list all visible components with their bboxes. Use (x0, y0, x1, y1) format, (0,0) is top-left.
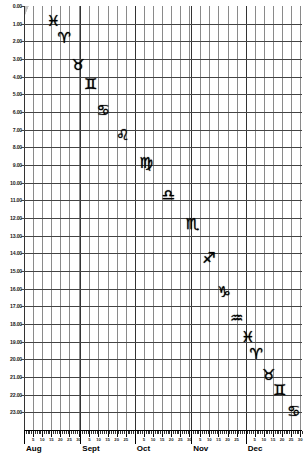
day-tick-label: 25 (289, 437, 294, 442)
day-tick-label: 5 (254, 437, 256, 442)
zodiac-glyph-capricorn: ♑ (217, 285, 230, 300)
zodiac-glyph-taurus: ♉ (71, 58, 84, 73)
day-tick-label: 25 (123, 437, 128, 442)
hour-gridline (24, 306, 302, 307)
hour-gridline (24, 94, 302, 95)
hour-gridline (24, 183, 302, 184)
hour-gridline (24, 130, 302, 131)
zodiac-glyph-sagittarius: ♐ (202, 251, 215, 266)
y-axis: 0.001.002.003.004.005.006.007.008.009.00… (0, 0, 24, 436)
day-tick-label: 20 (114, 437, 119, 442)
day-tick-label: 30 (298, 437, 303, 442)
x-axis: Aug51015202530Sept510152025Oct5101520253… (24, 431, 302, 467)
zodiac-glyph-scorpio: ♏ (185, 217, 198, 232)
day-tick-label: 15 (160, 437, 165, 442)
day-tick-label: 10 (40, 437, 45, 442)
zodiac-glyph-leo: ♌ (116, 128, 129, 143)
hour-gridline (24, 324, 302, 325)
day-tick-label: 20 (225, 437, 230, 442)
day-tick-label: 15 (49, 437, 54, 442)
plot-area: ♓♈♉♊♋♌♍♎♏♐♑♒♓♈♉♊♋ (24, 6, 302, 430)
hour-gridline (24, 24, 302, 25)
day-tick-label: 10 (96, 437, 101, 442)
zodiac-glyph-cancer: ♋ (96, 102, 109, 117)
hour-gridline (24, 59, 302, 60)
day-tick-label: 5 (143, 437, 145, 442)
day-tick-label: 5 (32, 437, 34, 442)
hour-gridline (24, 165, 302, 166)
month-label-sept: Sept (82, 444, 99, 453)
day-tick-label: 25 (178, 437, 183, 442)
day-tick-label: 25 (67, 437, 72, 442)
day-tick-label: 10 (151, 437, 156, 442)
zodiac-glyph-gemini: ♊ (273, 382, 286, 397)
hour-gridline (24, 112, 302, 113)
day-tick-label: 15 (271, 437, 276, 442)
hour-gridline (24, 412, 302, 413)
zodiac-glyph-libra: ♎ (162, 187, 175, 202)
zodiac-glyph-pisces: ♓ (46, 13, 59, 28)
day-tick-label: 10 (207, 437, 212, 442)
day-tick-label: 20 (280, 437, 285, 442)
hour-gridline (24, 218, 302, 219)
day-tick-label: 5 (88, 437, 90, 442)
day-tick-label: 10 (261, 437, 266, 442)
zodiac-glyph-virgo: ♍ (140, 155, 153, 170)
zodiac-glyph-aquarius: ♒ (230, 310, 243, 325)
month-label-dec: Dec (248, 444, 263, 453)
zodiac-glyph-aries: ♈ (249, 346, 262, 361)
hour-gridline (24, 342, 302, 343)
hour-gridline (24, 147, 302, 148)
hour-gridline (24, 253, 302, 254)
day-tick-label: 15 (216, 437, 221, 442)
day-tick-label: 15 (105, 437, 110, 442)
hour-gridline (24, 271, 302, 272)
month-label-oct: Oct (137, 444, 150, 453)
day-tick-label: 20 (169, 437, 174, 442)
day-tick (302, 431, 303, 434)
day-tick-label: 5 (199, 437, 201, 442)
zodiac-glyph-cancer: ♋ (287, 403, 300, 418)
hour-gridline (24, 236, 302, 237)
hour-gridline (24, 77, 302, 78)
month-label-nov: Nov (193, 444, 208, 453)
hour-gridline (24, 377, 302, 378)
hour-gridline (24, 395, 302, 396)
zodiac-glyph-pisces: ♓ (241, 329, 254, 344)
horizontal-gridlines (24, 6, 302, 430)
day-tick-label: 25 (234, 437, 239, 442)
month-label-aug: Aug (26, 444, 42, 453)
zodiac-glyph-gemini: ♊ (84, 77, 97, 92)
day-tick-label: 20 (58, 437, 63, 442)
zodiac-glyph-aries: ♈ (58, 30, 71, 45)
zodiac-transit-chart: 0.001.002.003.004.005.006.007.008.009.00… (0, 0, 308, 467)
hour-gridline (24, 289, 302, 290)
